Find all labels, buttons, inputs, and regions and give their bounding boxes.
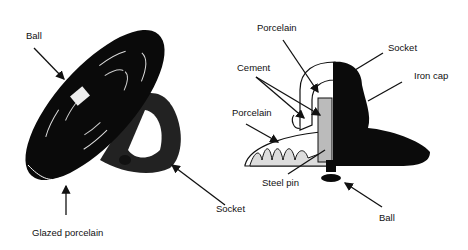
label-ball-left: Ball (26, 30, 42, 41)
label-porcelain-left: Porcelain (232, 107, 272, 118)
label-iron-cap: Iron cap (414, 70, 448, 81)
label-glazed-porcelain: Glazed porcelain (32, 227, 103, 238)
label-socket-left: Socket (216, 203, 245, 214)
label-porcelain-top: Porcelain (257, 22, 297, 33)
label-steel-pin: Steel pin (262, 177, 299, 188)
label-cement: Cement (237, 62, 270, 73)
right-insulator-cross-section (245, 62, 430, 182)
label-socket-right: Socket (388, 42, 417, 53)
label-ball-right: Ball (379, 212, 395, 223)
